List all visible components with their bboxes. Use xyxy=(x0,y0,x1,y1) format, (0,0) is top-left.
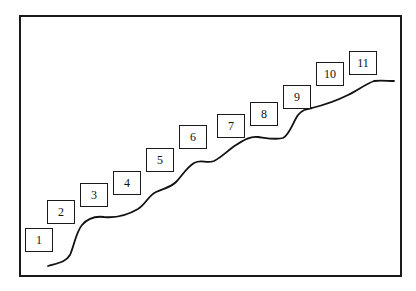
step-label: 10 xyxy=(324,68,336,80)
diagram-frame xyxy=(19,15,402,277)
step-box-5: 5 xyxy=(146,148,174,172)
step-label: 9 xyxy=(294,91,300,103)
step-box-10: 10 xyxy=(316,62,344,86)
step-label: 4 xyxy=(124,177,130,189)
step-label: 2 xyxy=(58,206,64,218)
step-box-4: 4 xyxy=(113,171,141,195)
step-label: 1 xyxy=(36,234,42,246)
step-label: 7 xyxy=(228,120,234,132)
step-label: 3 xyxy=(91,189,97,201)
step-box-7: 7 xyxy=(217,114,245,138)
step-box-6: 6 xyxy=(179,125,207,149)
step-box-2: 2 xyxy=(47,200,75,224)
step-label: 6 xyxy=(190,131,196,143)
step-box-3: 3 xyxy=(80,183,108,207)
step-box-8: 8 xyxy=(250,102,278,126)
step-label: 8 xyxy=(261,108,267,120)
step-box-11: 11 xyxy=(349,51,377,75)
step-label: 5 xyxy=(157,154,163,166)
step-box-9: 9 xyxy=(283,85,311,109)
step-box-1: 1 xyxy=(25,228,53,252)
step-label: 11 xyxy=(357,57,369,69)
